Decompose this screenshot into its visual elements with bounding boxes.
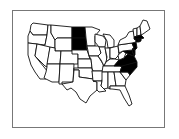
state-florida: [110, 86, 132, 106]
state-wyoming: [55, 38, 72, 51]
state-washington: [30, 23, 48, 35]
state-vermont: [133, 28, 137, 37]
state-south-dakota: [72, 38, 87, 50]
state-new-mexico: [59, 64, 74, 84]
us-map: [0, 0, 179, 139]
state-kansas: [78, 59, 92, 68]
state-north-dakota: [72, 27, 86, 38]
state-rhode-island: [139, 39, 141, 42]
state-tennessee: [102, 66, 122, 72]
state-ohio: [110, 46, 119, 59]
state-maine: [140, 20, 150, 35]
state-mississippi: [101, 72, 108, 89]
